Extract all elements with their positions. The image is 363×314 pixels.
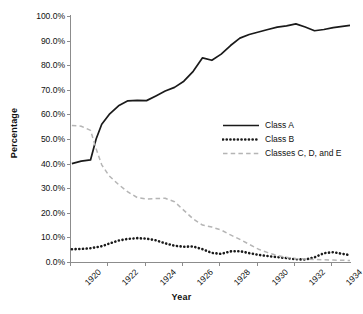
chart-legend: Class AClass BClasses C, D, and E: [222, 118, 342, 160]
legend-label: Class B: [265, 135, 294, 144]
legend-line-sample: [222, 121, 260, 130]
y-axis-tick-label: 50.0%: [41, 134, 65, 144]
y-axis-tick-label: 10.0%: [41, 232, 65, 242]
x-axis-tick-mark: [145, 262, 146, 266]
legend-item: Class B: [222, 132, 342, 146]
legend-line-sample: [222, 149, 260, 158]
x-axis-line: [70, 262, 351, 263]
legend-item: Classes C, D, and E: [222, 146, 342, 160]
x-axis-tick-label: 1928: [232, 267, 252, 287]
y-axis-title: Percentage: [9, 93, 19, 173]
x-axis-tick-mark: [219, 262, 220, 266]
x-axis-tick-mark: [294, 262, 295, 266]
legend-item: Class A: [222, 118, 342, 132]
x-axis-tick-mark: [331, 262, 332, 266]
x-axis-tick-label: 1924: [157, 267, 177, 287]
x-axis-tick-label: 1932: [307, 267, 327, 287]
x-axis-tick-mark: [182, 262, 183, 266]
legend-line-sample: [222, 135, 260, 144]
y-axis-tick-label: 20.0%: [41, 208, 65, 218]
y-axis-tick-label: 80.0%: [41, 60, 65, 70]
y-axis-tick-label: 30.0%: [41, 183, 65, 193]
y-axis-tick-label: 70.0%: [41, 85, 65, 95]
x-axis-tick-mark: [107, 262, 108, 266]
x-axis-tick-label: 1922: [120, 267, 140, 287]
y-axis-tick-label: 0.0%: [46, 257, 65, 267]
legend-label: Classes C, D, and E: [265, 149, 342, 158]
x-axis-tick-mark: [257, 262, 258, 266]
chart-container: Percentage 0.0%10.0%20.0%30.0%40.0%50.0%…: [0, 0, 363, 314]
y-axis-tick-label: 90.0%: [41, 36, 65, 46]
y-axis-tick-label: 100.0%: [36, 11, 65, 21]
series-line: [72, 238, 350, 259]
x-axis-title: Year: [0, 292, 363, 302]
x-axis-tick-label: 1926: [195, 267, 215, 287]
x-axis-tick-mark: [70, 262, 71, 266]
x-axis-tick-label: 1920: [83, 267, 103, 287]
x-axis-tick-label: 1934: [344, 267, 363, 287]
x-axis-tick-label: 1930: [269, 267, 289, 287]
legend-label: Class A: [265, 121, 294, 130]
y-axis-tick-label: 40.0%: [41, 159, 65, 169]
y-axis-tick-label: 60.0%: [41, 109, 65, 119]
